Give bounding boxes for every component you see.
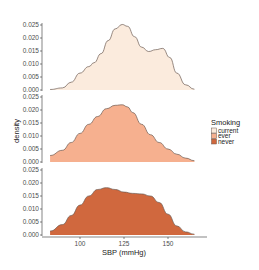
legend-swatch-current [212, 128, 217, 133]
y-tick-label: 0.005 [23, 218, 40, 225]
y-tick-label: 0.005 [23, 73, 40, 80]
y-tick-label: 0.025 [23, 93, 40, 100]
x-axis-label: SBP (mmHg) [102, 248, 147, 257]
y-tick-label: 0.010 [23, 132, 40, 139]
y-tick-label: 0.005 [23, 145, 40, 152]
y-tick-label: 0.020 [23, 106, 40, 113]
density-area-never [50, 188, 194, 235]
density-chart: 0.0000.0050.0100.0150.0200.0250.0000.005… [0, 0, 259, 270]
legend-swatch-never [212, 139, 217, 144]
x-tick-label: 100 [75, 240, 86, 247]
density-area-ever [50, 105, 194, 162]
y-tick-label: 0.020 [23, 34, 40, 41]
y-tick-label: 0.000 [23, 231, 40, 238]
y-tick-label: 0.020 [23, 179, 40, 186]
y-tick-label: 0.025 [23, 21, 40, 28]
density-area-current [50, 24, 194, 90]
y-tick-label: 0.010 [23, 60, 40, 67]
y-axis-label: density [12, 119, 21, 143]
y-tick-label: 0.010 [23, 205, 40, 212]
y-tick-label: 0.015 [23, 119, 40, 126]
x-tick-label: 150 [163, 240, 174, 247]
x-tick-label: 125 [119, 240, 130, 247]
y-tick-label: 0.015 [23, 47, 40, 54]
y-tick-label: 0.000 [23, 86, 40, 93]
y-tick-label: 0.000 [23, 158, 40, 165]
legend-swatch-ever [212, 134, 217, 139]
y-tick-label: 0.015 [23, 192, 40, 199]
y-tick-label: 0.025 [23, 166, 40, 173]
legend-label-never: never [218, 138, 235, 145]
